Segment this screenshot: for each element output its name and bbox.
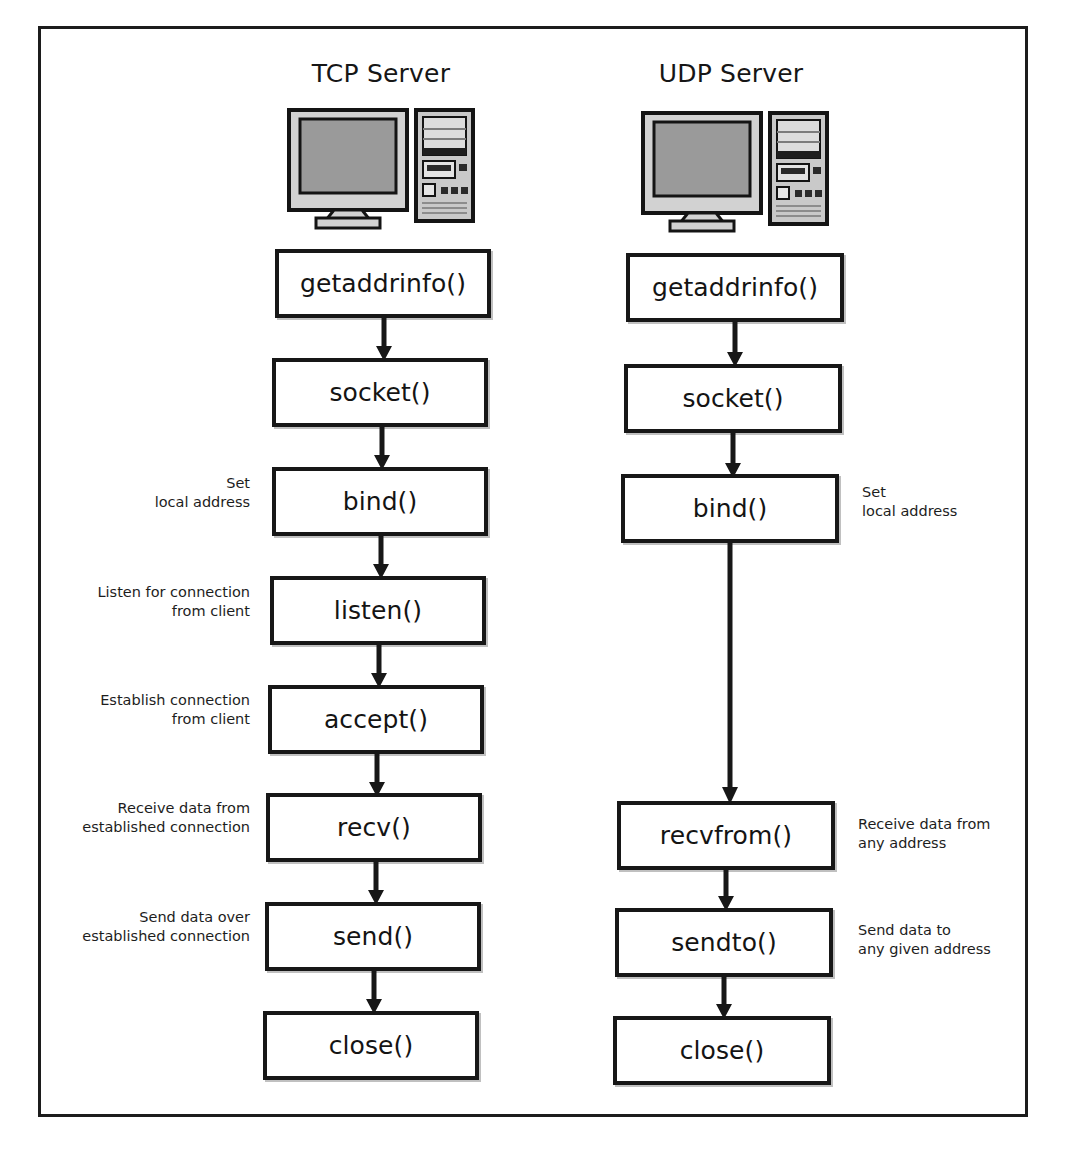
tcp-step-box-send[interactable]: send() <box>265 902 481 971</box>
udp-arrow-recvfrom-to-sendto <box>716 868 736 912</box>
tcp-step-label: close() <box>329 1033 414 1058</box>
udp-step-label: bind() <box>693 496 768 521</box>
tcp-note-send: Send data over established connection <box>28 908 250 946</box>
tcp-note-listen: Listen for connection from client <box>42 583 250 621</box>
tcp-step-label: listen() <box>334 598 422 623</box>
udp-note-sendto: Send data to any given address <box>858 921 1048 959</box>
tcp-step-label: getaddrinfo() <box>300 271 466 296</box>
udp-step-label: close() <box>680 1038 765 1063</box>
udp-arrow-socket-to-bind <box>723 431 743 479</box>
tcp-note-recv: Receive data from established connection <box>28 799 250 837</box>
udp-arrow-bind-to-recvfrom <box>720 541 740 805</box>
tcp-arrow-accept-to-recv <box>367 752 387 798</box>
tcp-step-box-close[interactable]: close() <box>263 1011 479 1080</box>
udp-note-bind: Set local address <box>862 483 1042 521</box>
udp-step-label: sendto() <box>671 930 777 955</box>
diagram-page: TCP Server UDP Server <box>0 0 1073 1152</box>
udp-step-box-recvfrom[interactable]: recvfrom() <box>617 801 835 870</box>
tcp-arrow-bind-to-listen <box>371 534 391 580</box>
tcp-arrow-getaddrinfo-to-socket <box>374 316 394 362</box>
udp-step-box-socket[interactable]: socket() <box>624 364 842 433</box>
udp-step-box-close[interactable]: close() <box>613 1016 831 1085</box>
tcp-column-heading: TCP Server <box>253 59 509 88</box>
tcp-arrow-send-to-close <box>364 969 384 1015</box>
tcp-step-label: send() <box>333 924 413 949</box>
udp-step-box-sendto[interactable]: sendto() <box>615 908 833 977</box>
tcp-server-computer-icon <box>286 108 476 230</box>
udp-note-recvfrom: Receive data from any address <box>858 815 1048 853</box>
tcp-arrow-socket-to-bind <box>372 425 392 471</box>
tcp-step-label: socket() <box>329 380 430 405</box>
udp-step-label: getaddrinfo() <box>652 275 818 300</box>
udp-server-computer-icon <box>640 111 830 233</box>
tcp-step-label: recv() <box>337 815 411 840</box>
udp-step-box-bind[interactable]: bind() <box>621 474 839 543</box>
tcp-note-accept: Establish connection from client <box>42 691 250 729</box>
tcp-arrow-listen-to-accept <box>369 643 389 689</box>
udp-column-heading: UDP Server <box>603 59 859 88</box>
tcp-step-box-getaddrinfo[interactable]: getaddrinfo() <box>275 249 491 318</box>
udp-arrow-sendto-to-close <box>714 975 734 1020</box>
tcp-arrow-recv-to-send <box>366 860 386 906</box>
udp-step-box-getaddrinfo[interactable]: getaddrinfo() <box>626 253 844 322</box>
tcp-note-bind: Set local address <box>60 474 250 512</box>
tcp-step-box-bind[interactable]: bind() <box>272 467 488 536</box>
tcp-step-label: accept() <box>324 707 428 732</box>
udp-step-label: socket() <box>682 386 783 411</box>
tcp-step-box-socket[interactable]: socket() <box>272 358 488 427</box>
tcp-step-label: bind() <box>343 489 418 514</box>
tcp-step-box-listen[interactable]: listen() <box>270 576 486 645</box>
tcp-step-box-recv[interactable]: recv() <box>266 793 482 862</box>
udp-step-label: recvfrom() <box>660 823 792 848</box>
tcp-step-box-accept[interactable]: accept() <box>268 685 484 754</box>
udp-arrow-getaddrinfo-to-socket <box>725 320 745 368</box>
